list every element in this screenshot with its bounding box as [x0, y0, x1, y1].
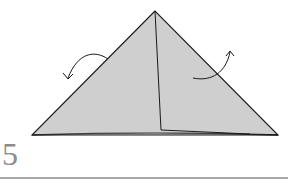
step-number: 5 — [2, 138, 18, 170]
folding-illustration — [0, 0, 288, 187]
step-divider — [0, 177, 288, 179]
origami-diagram: 5 — [0, 0, 288, 187]
paper-triangle — [32, 11, 278, 135]
